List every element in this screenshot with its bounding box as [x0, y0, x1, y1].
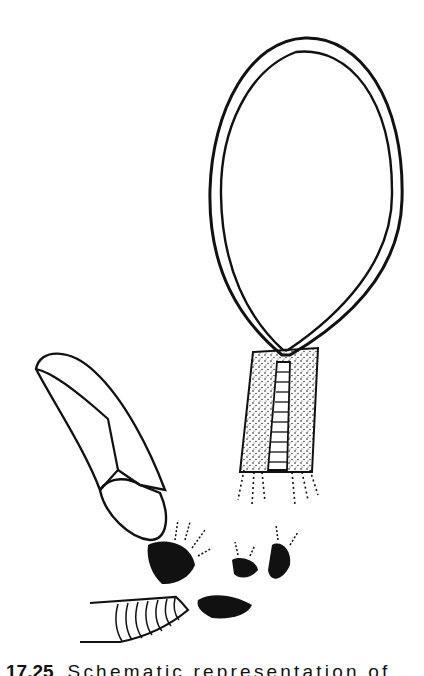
figure-number: 17.25 — [6, 661, 54, 676]
leaf-sheath-drawing — [36, 354, 166, 540]
figure-drawing — [0, 0, 424, 676]
figure-caption: 17.25Schematic representation of — [6, 661, 424, 676]
seta-drawing — [238, 348, 318, 505]
capsule-drawing — [210, 38, 402, 355]
caption-text: Schematic representation of — [68, 661, 391, 676]
ribbed-stalk-drawing — [80, 597, 188, 642]
botanical-figure: 17.25Schematic representation of — [0, 0, 424, 676]
rhizoid-tufts-drawing — [148, 520, 298, 618]
